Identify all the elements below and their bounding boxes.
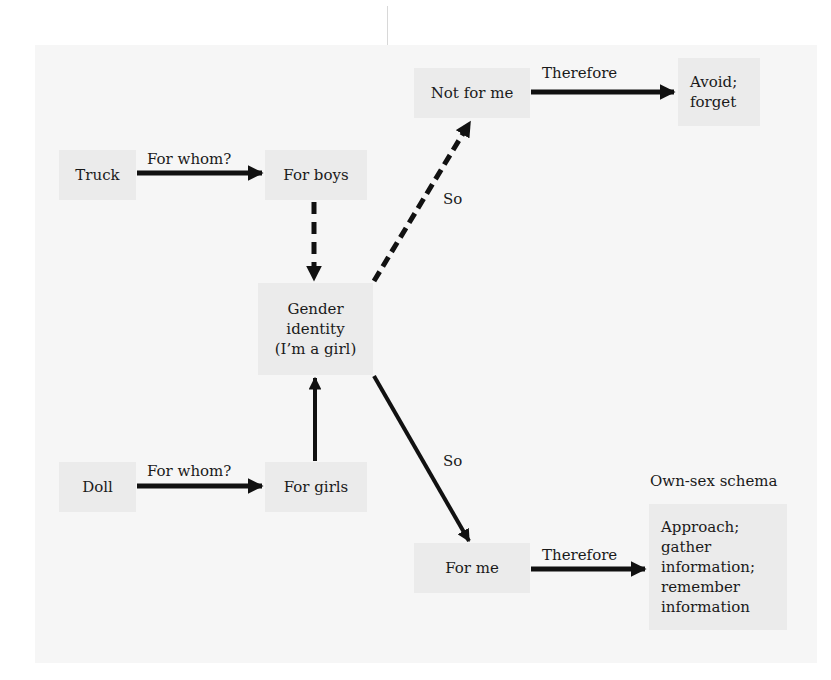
- arrow-identity-to-not-for-me-dashed: [374, 122, 470, 281]
- arrow-identity-to-for-me: [374, 376, 469, 541]
- arrows-layer: [0, 0, 831, 680]
